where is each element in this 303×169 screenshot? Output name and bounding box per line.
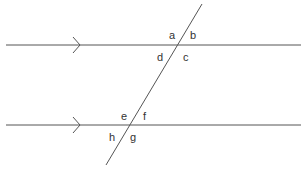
angle-label-f: f — [143, 110, 147, 122]
transversal-line — [106, 4, 202, 165]
angle-label-d: d — [157, 51, 163, 63]
parallel-lines-diagram: a b d c e f h g — [0, 0, 303, 169]
angle-label-h: h — [109, 131, 115, 143]
angle-label-g: g — [130, 131, 136, 143]
angle-label-a: a — [169, 29, 176, 41]
angle-label-b: b — [190, 29, 196, 41]
angle-label-c: c — [183, 51, 189, 63]
angle-label-e: e — [121, 110, 127, 122]
